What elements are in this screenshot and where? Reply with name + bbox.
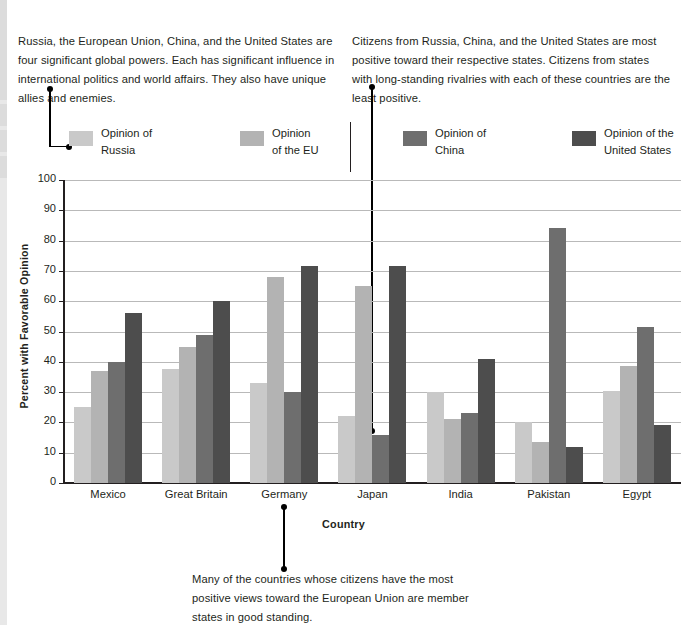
bar-group-india [417,180,505,483]
y-tick-label-60: 60 [16,293,56,305]
x-tick-label-mexico: Mexico [64,488,152,500]
x-tick-label-egypt: Egypt [593,488,681,500]
legend-swatch-china [403,131,427,146]
y-tick-label-0: 0 [16,475,56,487]
bar-great-britain-opinion-of-russia[interactable] [162,369,179,483]
bar-egypt-opinion-of-russia[interactable] [603,391,620,483]
bar-egypt-opinion-of-the-united-states[interactable] [654,425,671,483]
legend-label-china-line1: Opinion of [435,125,555,142]
legend-swatch-eu [240,131,264,146]
bar-group-japan [328,180,416,483]
y-tick-label-40: 40 [16,354,56,366]
y-tick-label-70: 70 [16,263,56,275]
bar-group-germany [240,180,328,483]
x-tick-label-japan: Japan [328,488,416,500]
annotation-note-self-opinion: Citizens from Russia, China, and the Uni… [352,32,672,108]
bar-great-britain-opinion-of-the-eu[interactable] [179,347,196,483]
legend-label-russia-line1: Opinion of [101,125,221,142]
bar-great-britain-opinion-of-china[interactable] [196,335,213,483]
bar-mexico-opinion-of-the-united-states[interactable] [125,313,142,483]
bar-japan-opinion-of-china[interactable] [372,435,389,483]
bar-mexico-opinion-of-the-eu[interactable] [91,371,108,483]
bar-germany-opinion-of-russia[interactable] [250,383,267,483]
bar-egypt-opinion-of-the-eu[interactable] [620,366,637,483]
x-tick-label-germany: Germany [240,488,328,500]
bar-groups [64,180,681,483]
y-tick-label-20: 20 [16,414,56,426]
legend-swatch-russia [69,131,93,146]
legend-label-russia-line2: Russia [101,142,221,159]
y-tick-label-90: 90 [16,202,56,214]
x-tick-label-india: India [417,488,505,500]
x-axis-title: Country [0,518,687,530]
legend-swatch-united-states [572,131,596,146]
bar-pakistan-opinion-of-russia[interactable] [515,422,532,483]
bar-india-opinion-of-china[interactable] [461,413,478,483]
bar-japan-opinion-of-the-united-states[interactable] [389,266,406,483]
bar-india-opinion-of-the-united-states[interactable] [478,359,495,483]
y-axis-ticks: 0102030405060708090100 [16,180,56,483]
legend-label-eu-line2: of the EU [272,142,392,159]
bar-mexico-opinion-of-russia[interactable] [74,407,91,483]
bar-india-opinion-of-the-eu[interactable] [444,419,461,483]
annotation-note-global-powers: Russia, the European Union, China, and t… [18,32,338,108]
bar-germany-opinion-of-china[interactable] [284,392,301,483]
y-tick-label-30: 30 [16,384,56,396]
annotation-note-eu-members: Many of the countries whose citizens hav… [192,570,492,625]
bar-germany-opinion-of-the-united-states[interactable] [301,266,318,483]
y-tick-label-50: 50 [16,324,56,336]
bar-great-britain-opinion-of-the-united-states[interactable] [213,301,230,483]
y-tick-label-100: 100 [16,172,56,184]
bar-pakistan-opinion-of-the-united-states[interactable] [566,447,583,483]
y-tick-label-10: 10 [16,445,56,457]
y-tick-label-80: 80 [16,233,56,245]
bar-group-egypt [593,180,681,483]
bar-chart: Percent with Favorable Opinion 010203040… [0,180,687,495]
bar-pakistan-opinion-of-the-eu[interactable] [532,442,549,483]
legend-label-eu-line1: Opinion [272,125,392,142]
bar-germany-opinion-of-the-eu[interactable] [267,277,284,483]
legend-label-china-line2: China [435,142,555,159]
bar-group-pakistan [505,180,593,483]
bar-japan-opinion-of-russia[interactable] [338,416,355,483]
bar-group-mexico [64,180,152,483]
bar-egypt-opinion-of-china[interactable] [637,327,654,483]
bar-pakistan-opinion-of-china[interactable] [549,228,566,483]
legend-label-united-states-line1: Opinion of the [604,125,687,142]
x-tick-label-great-britain: Great Britain [152,488,240,500]
bar-group-great-britain [152,180,240,483]
bar-mexico-opinion-of-china[interactable] [108,362,125,483]
bar-india-opinion-of-russia[interactable] [427,392,444,483]
bar-japan-opinion-of-the-eu[interactable] [355,286,372,483]
legend-label-united-states-line2: United States [604,142,687,159]
chart-legend: Opinion of Russia Opinion of the EU Opin… [0,125,687,171]
x-tick-label-pakistan: Pakistan [505,488,593,500]
